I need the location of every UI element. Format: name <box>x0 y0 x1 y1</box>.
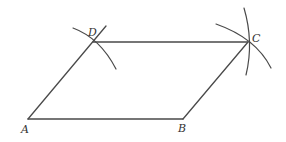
label-b: B <box>177 122 186 135</box>
label-d: D <box>87 26 97 39</box>
construction-arc-c-diagonal <box>216 24 271 68</box>
label-a: A <box>20 123 29 136</box>
segment-bc <box>183 42 248 119</box>
label-c: C <box>252 32 261 45</box>
parallelogram-diagram: A B C D <box>0 0 286 142</box>
